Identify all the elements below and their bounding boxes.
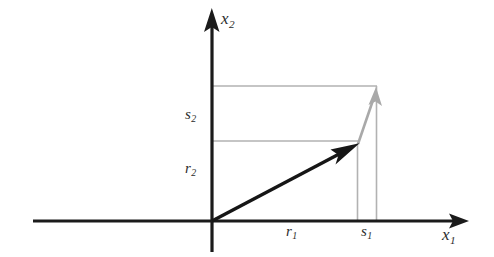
guide-lines-group [212,86,377,221]
axis-label-x1-base: x [442,225,450,244]
magnitude-label-r1-subscript: 1 [292,230,297,241]
magnitude-label-r1-base: r [286,223,292,239]
x-axis [33,214,469,229]
axis-label-x2-subscript: 2 [229,18,235,30]
magnitude-label-s1-subscript: 1 [367,230,372,241]
y-axis [204,8,220,252]
magnitude-label-s2-base: s [185,106,191,122]
axis-label-x1-subscript: 1 [450,234,456,246]
vector-diagram-figure: x2 x1 s2 r2 r1 s1 [0,0,494,257]
magnitude-label-r2-base: r [185,160,191,176]
axis-label-x2-base: x [221,9,229,28]
vector-s-minus-r-shaft [358,99,373,144]
magnitude-label-s1: s1 [361,224,372,239]
axis-label-x1: x1 [442,226,456,243]
diagram-canvas [0,0,494,257]
magnitude-label-r2-subscript: 2 [191,167,196,178]
vector-r-arrowhead [331,143,360,164]
vector-s-minus-r-arrowhead [369,87,383,106]
magnitude-label-s2-subscript: 2 [191,113,196,124]
magnitude-label-r2: r2 [185,161,196,176]
vector-r-shaft [212,152,342,221]
magnitude-label-s1-base: s [361,223,367,239]
axis-label-x2: x2 [221,10,235,27]
vector-s-minus-r [358,87,382,144]
magnitude-label-r1: r1 [286,224,297,239]
vector-r [212,143,360,221]
magnitude-label-s2: s2 [185,107,196,122]
